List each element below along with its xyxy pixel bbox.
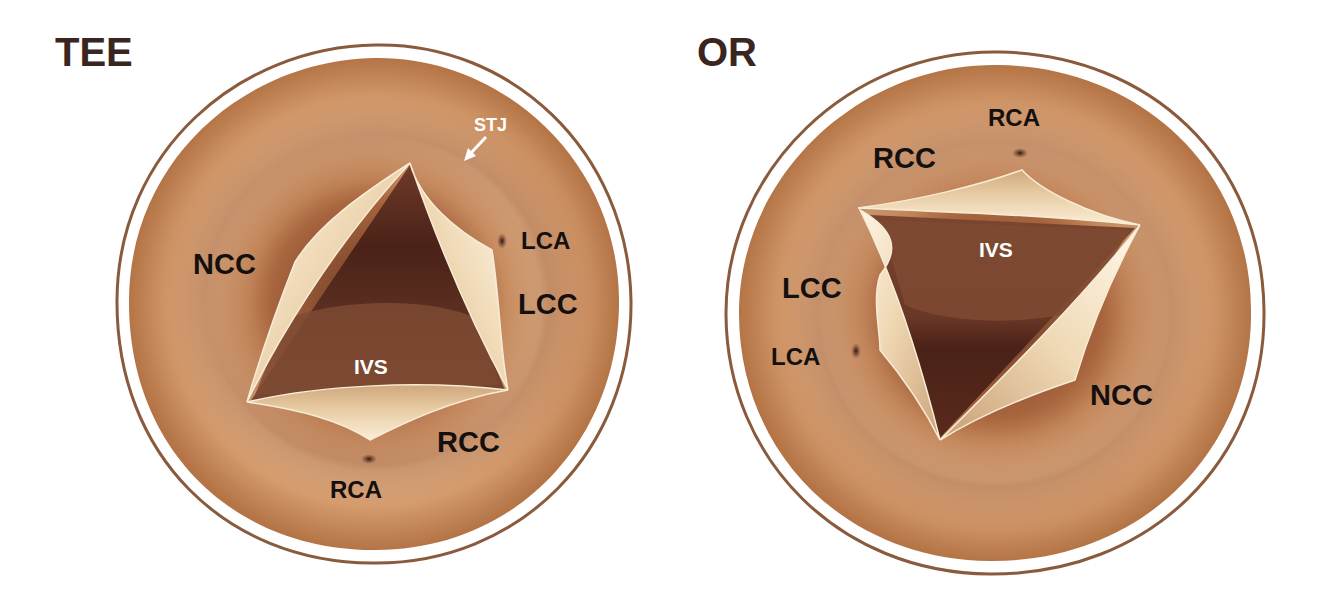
tee-lca-ostium-icon [497, 233, 507, 249]
or-lca-ostium-icon [851, 343, 861, 359]
tee-label-stj: STJ [474, 115, 507, 135]
or-label-ncc: NCC [1090, 379, 1153, 411]
or-label-rca: RCA [988, 104, 1040, 131]
tee-panel: TEE STJ LCA NCC LCC IVS RCC RCA [55, 30, 631, 563]
or-title: OR [697, 30, 757, 74]
aortic-valve-figure: TEE STJ LCA NCC LCC IVS RCC RCA OR [0, 0, 1323, 594]
tee-label-lca: LCA [521, 227, 570, 254]
or-label-ivs: IVS [979, 238, 1013, 261]
or-label-lca: LCA [771, 343, 820, 370]
tee-label-lcc: LCC [518, 288, 578, 320]
tee-rca-ostium-icon [361, 454, 377, 464]
tee-label-ncc: NCC [193, 248, 256, 280]
tee-title: TEE [55, 30, 133, 74]
or-label-rcc: RCC [873, 142, 936, 174]
or-label-lcc: LCC [782, 272, 842, 304]
or-panel: OR RCA RCC IVS LCC LCA NCC [697, 30, 1264, 574]
tee-label-ivs: IVS [354, 355, 388, 378]
or-rca-ostium-icon [1012, 148, 1028, 158]
tee-label-rca: RCA [330, 476, 382, 503]
tee-label-rcc: RCC [437, 426, 500, 458]
